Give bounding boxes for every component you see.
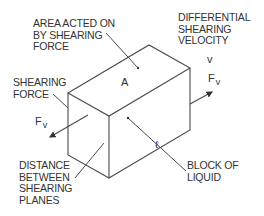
block-label: BLOCK OF LIQUID <box>187 160 239 183</box>
shearing-force-label-line: SHEARING <box>13 77 66 89</box>
area-label-line: FORCE <box>33 41 115 53</box>
velocity-label: DIFFERENTIAL SHEARING VELOCITY <box>178 12 250 47</box>
shearing-force-label-line: FORCE <box>13 89 66 101</box>
velocity-label-line: VELOCITY <box>178 35 250 47</box>
left-force-arrow <box>50 115 88 137</box>
area-point <box>137 67 139 69</box>
block-point <box>127 117 129 119</box>
velocity-label-line: DIFFERENTIAL <box>178 12 250 24</box>
force-main: F <box>35 115 42 127</box>
velocity-symbol: v <box>207 53 213 65</box>
force-sub: v <box>43 120 48 130</box>
distance-label-line: SHEARING <box>19 183 72 195</box>
area-symbol: A <box>121 76 128 88</box>
area-label: AREA ACTED ON BY SHEARING FORCE <box>33 18 115 53</box>
top-face <box>68 45 190 116</box>
left-face <box>68 93 109 178</box>
force-sub: v <box>216 77 221 87</box>
block-label-line: LIQUID <box>187 172 239 184</box>
distance-label-line: PLANES <box>19 195 72 207</box>
shearing-force-label: SHEARING FORCE <box>13 77 66 100</box>
force-main: F <box>208 72 215 84</box>
distance-label: DISTANCE BETWEEN SHEARING PLANES <box>19 160 72 206</box>
right-force-arrow <box>190 92 212 104</box>
area-label-line: AREA ACTED ON <box>33 18 115 30</box>
left-force-symbol: Fv <box>35 115 47 127</box>
right-force-symbol: Fv <box>208 72 220 84</box>
distance-symbol: ℓ <box>155 139 158 150</box>
distance-label-line: DISTANCE <box>19 160 72 172</box>
block-label-line: BLOCK OF <box>187 160 239 172</box>
